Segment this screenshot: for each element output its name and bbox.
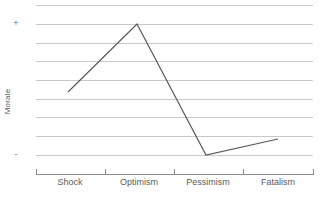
y-axis-tick-label: - [8,150,24,159]
x-axis-tick-end [313,169,314,175]
plot-area [36,0,313,174]
x-axis-tick-label-pessimism: Pessimism [168,177,248,188]
x-axis-tick-label-fatalism: Fatalism [238,177,318,188]
series-line-morale [36,0,313,174]
x-axis-tick-label-optimism: Optimism [99,177,179,188]
morale-line-chart: Morale +- ShockOptimismPessimismFatalism [0,0,321,203]
x-axis-tick [243,169,244,175]
series-polyline [68,24,278,155]
x-axis-tick [36,169,37,175]
x-axis-tick [105,169,106,175]
y-axis-tick-label: + [8,19,24,28]
x-axis-tick-label-shock: Shock [30,177,110,188]
x-axis-tick [174,169,175,175]
y-axis-title: Morale [0,0,14,203]
